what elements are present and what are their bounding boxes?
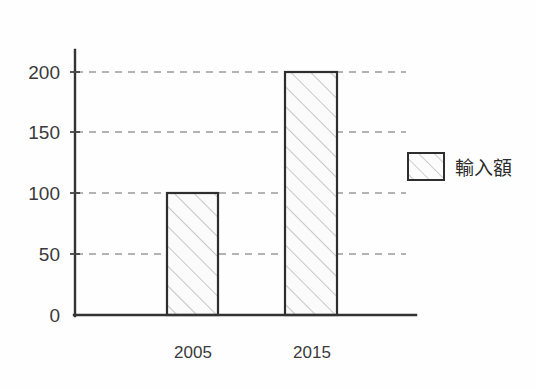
y-tick-label-200: 200	[28, 62, 60, 83]
x-tick-label-2005: 2005	[174, 343, 212, 362]
legend: 輸入額	[408, 153, 512, 180]
y-tick-label-0: 0	[49, 305, 60, 326]
legend-swatch-icon	[408, 153, 444, 180]
y-tick-label-100: 100	[28, 183, 60, 204]
x-tick-label-2015: 2015	[293, 343, 331, 362]
y-tick-label-150: 150	[28, 122, 60, 143]
bar-2015[interactable]	[285, 72, 337, 315]
bar-2005[interactable]	[167, 193, 218, 315]
bar-chart-figure: 200 150 100 50 0 2005 2015 輸入額	[0, 0, 536, 390]
chart-canvas: 200 150 100 50 0 2005 2015 輸入額	[0, 0, 536, 390]
legend-label-import-value: 輸入額	[455, 157, 512, 179]
y-tick-label-50: 50	[39, 244, 60, 265]
chart-background	[0, 0, 536, 390]
